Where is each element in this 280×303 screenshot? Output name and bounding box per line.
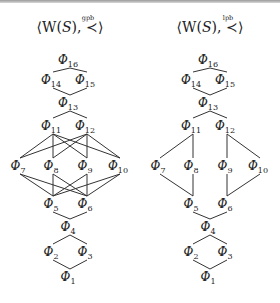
node-phi-12: Φ12: [75, 119, 95, 135]
edge-7-5: [20, 174, 53, 196]
edge-2-1: [53, 260, 70, 269]
edge-3-1: [70, 260, 87, 269]
edge-4-3: [70, 235, 87, 244]
hasse-diagrams-canvas: ⟨W(S), ≺⟩gpbΦ16Φ14Φ15Φ13Φ11Φ12Φ7Φ8Φ9Φ10Φ…: [0, 0, 280, 303]
node-phi-10: Φ10: [108, 159, 128, 175]
node-phi-16: Φ16: [198, 53, 218, 69]
node-phi-3: Φ3: [78, 245, 93, 261]
edge-6-4: [70, 212, 87, 219]
node-phi-2: Φ2: [184, 245, 199, 261]
node-phi-6: Φ6: [218, 197, 233, 213]
node-phi-15: Φ15: [75, 73, 95, 89]
node-phi-11: Φ11: [181, 119, 201, 135]
node-phi-5: Φ5: [184, 197, 199, 213]
edge-11-7: [160, 134, 193, 158]
node-phi-4: Φ4: [201, 220, 216, 236]
edge-13-12: [70, 111, 87, 118]
node-phi-2: Φ2: [44, 245, 59, 261]
node-phi-12: Φ12: [215, 119, 235, 135]
edge-14-13: [53, 88, 70, 95]
node-phi-13: Φ13: [58, 96, 78, 112]
node-phi-11: Φ11: [41, 119, 61, 135]
relation-superscript: lpb: [223, 14, 233, 22]
node-phi-7: Φ7: [151, 159, 166, 175]
edge-10-6: [227, 174, 260, 196]
relation-superscript: gpb: [82, 14, 94, 22]
edge-5-4: [193, 212, 210, 219]
node-phi-1: Φ1: [201, 270, 216, 286]
node-phi-8: Φ8: [44, 159, 59, 175]
node-phi-10: Φ10: [248, 159, 268, 175]
node-phi-16: Φ16: [58, 53, 78, 69]
node-phi-4: Φ4: [61, 220, 76, 236]
node-phi-1: Φ1: [61, 270, 76, 286]
node-phi-3: Φ3: [218, 245, 233, 261]
edge-6-4: [210, 212, 227, 219]
hasse-diagram-lpb: ⟨W(S), ≺⟩lpbΦ16Φ14Φ15Φ13Φ11Φ12Φ7Φ8Φ9Φ10Φ…: [151, 14, 268, 286]
node-phi-15: Φ15: [215, 73, 235, 89]
node-phi-9: Φ9: [78, 159, 93, 175]
edge-3-1: [210, 260, 227, 269]
edge-15-13: [210, 88, 227, 95]
edge-12-10: [227, 134, 260, 158]
edge-10-6: [87, 174, 120, 196]
diagram-title: ⟨W(S), ≺⟩: [177, 19, 244, 35]
node-phi-5: Φ5: [44, 197, 59, 213]
edge-4-3: [210, 235, 227, 244]
node-phi-8: Φ8: [184, 159, 199, 175]
edge-15-13: [70, 88, 87, 95]
node-phi-7: Φ7: [11, 159, 26, 175]
node-phi-6: Φ6: [78, 197, 93, 213]
edge-7-5: [160, 174, 193, 196]
edge-13-11: [193, 111, 210, 118]
node-phi-13: Φ13: [198, 96, 218, 112]
edge-13-12: [210, 111, 227, 118]
edge-12-10: [87, 134, 120, 158]
edge-4-2: [193, 235, 210, 244]
node-phi-9: Φ9: [218, 159, 233, 175]
hasse-diagram-gpb: ⟨W(S), ≺⟩gpbΦ16Φ14Φ15Φ13Φ11Φ12Φ7Φ8Φ9Φ10Φ…: [11, 14, 128, 286]
node-phi-14: Φ14: [181, 73, 201, 89]
node-phi-14: Φ14: [41, 73, 61, 89]
edge-5-4: [53, 212, 70, 219]
edge-4-2: [53, 235, 70, 244]
edge-11-7: [20, 134, 53, 158]
edge-14-13: [193, 88, 210, 95]
edge-2-1: [193, 260, 210, 269]
edge-13-11: [53, 111, 70, 118]
